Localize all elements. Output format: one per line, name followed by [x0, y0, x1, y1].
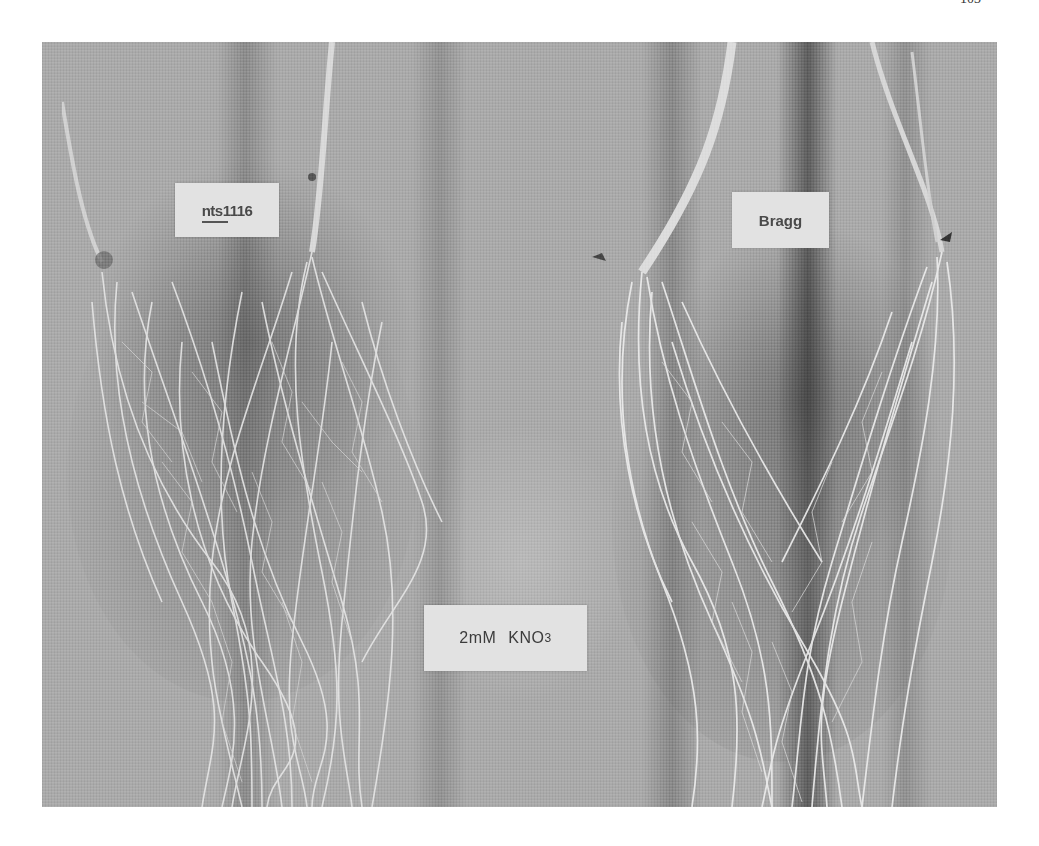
page-number: 103 [960, 0, 981, 7]
root-system-photograph: nts1116 Bragg 2mM KNO3 [42, 42, 997, 807]
treatment-concentration: 2mM [459, 629, 496, 647]
label-card-nts1116: nts1116 [175, 183, 279, 237]
film-grain-overlay [42, 42, 997, 807]
treatment-compound: KNO [508, 629, 544, 647]
genotype-label-bragg: Bragg [759, 212, 802, 229]
label-underline [202, 221, 228, 223]
treatment-subscript: 3 [545, 631, 552, 645]
genotype-text: nts1116 [202, 202, 253, 219]
label-card-bragg: Bragg [732, 192, 829, 248]
genotype-label-nts1116: nts1116 [202, 202, 253, 219]
label-card-treatment: 2mM KNO3 [424, 605, 587, 671]
